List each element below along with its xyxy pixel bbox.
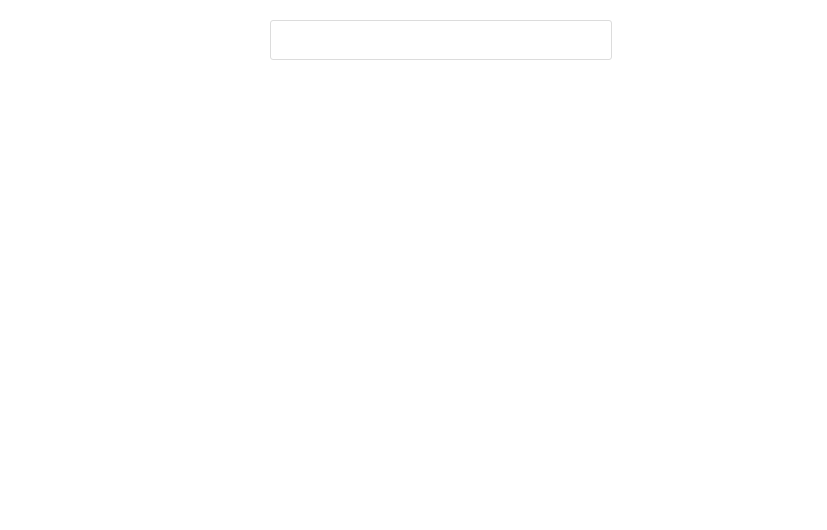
legend [270, 20, 612, 60]
legend-line-swatch-icon [537, 30, 571, 32]
chart-canvas [0, 0, 827, 530]
legend-line-swatch-icon [449, 30, 483, 32]
legend-entry-map [537, 30, 585, 32]
legend-entry-ml [449, 30, 497, 32]
